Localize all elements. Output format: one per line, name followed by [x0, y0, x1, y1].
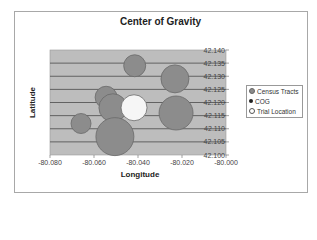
- y-tick-label: 42.130: [204, 73, 226, 80]
- x-tick-label: -80.000: [214, 159, 238, 166]
- y-tick-label: 42.125: [204, 86, 226, 93]
- census-tract-bubble: [96, 118, 134, 156]
- y-tick-label: 42.135: [204, 60, 226, 67]
- y-tick-label: 42.115: [204, 112, 225, 119]
- y-tick-label: 42.100: [204, 152, 226, 159]
- trial-location-bubble: [121, 95, 147, 121]
- cog-marker-icon: [249, 99, 253, 103]
- legend-item-census-tracts: Census Tracts: [249, 87, 300, 97]
- x-tick-label: -80.020: [170, 159, 194, 166]
- trial-location-marker-icon: [249, 108, 255, 114]
- y-tick-label: 42.140: [204, 47, 226, 54]
- census-tract-bubble: [124, 55, 146, 77]
- legend-item-cog: COG: [249, 97, 300, 107]
- legend: Census Tracts COG Trial Location: [246, 85, 303, 118]
- y-axis-label: Latitude: [28, 83, 37, 123]
- x-axis-label: Longitude: [110, 170, 170, 179]
- legend-label: COG: [255, 98, 270, 105]
- legend-item-trial-location: Trial Location: [249, 107, 300, 117]
- y-tick-label: 42.120: [204, 99, 226, 106]
- y-tick-label: 42.105: [204, 138, 226, 145]
- legend-label: Trial Location: [257, 108, 296, 115]
- x-tick-label: -80.060: [82, 159, 106, 166]
- y-tick-label: 42.110: [204, 125, 225, 132]
- census-tract-bubble: [159, 96, 193, 130]
- census-tract-bubble: [161, 65, 189, 93]
- census-tract-bubble: [71, 114, 91, 134]
- census-tracts-marker-icon: [249, 88, 255, 94]
- legend-label: Census Tracts: [257, 88, 299, 95]
- x-tick-label: -80.080: [38, 159, 62, 166]
- x-tick-label: -80.040: [126, 159, 150, 166]
